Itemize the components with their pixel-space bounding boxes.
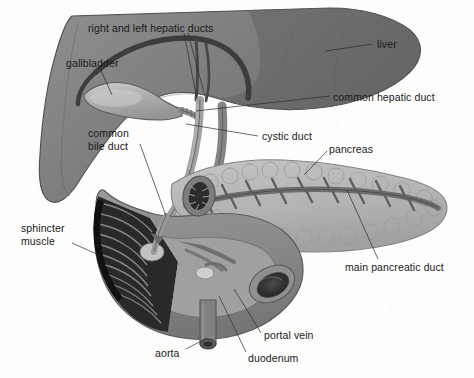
label-main-pancreatic-duct: main pancreatic duct [345, 261, 444, 274]
label-portal-vein: portal vein [264, 329, 314, 342]
label-sphincter-muscle: sphincter muscle [21, 222, 65, 247]
label-right-and-left-hepatic-ducts: right and left hepatic ducts [88, 22, 213, 35]
label-aorta: aorta [155, 347, 179, 360]
leader-line-common-bile-duct [140, 144, 166, 216]
label-liver: liver [377, 38, 397, 51]
label-cystic-duct: cystic duct [262, 130, 312, 143]
aorta-structure [200, 300, 216, 349]
label-duodenum: duodenum [248, 352, 298, 365]
anatomy-diagram-canvas: right and left hepatic ductslivergallbla… [0, 0, 474, 378]
cystic-duct-structure [180, 107, 198, 119]
label-common-hepatic-duct: common hepatic duct [333, 91, 435, 104]
label-gallbladder: gallbladder [66, 57, 118, 70]
label-common-bile-duct: common bile duct [88, 127, 129, 152]
label-pancreas: pancreas [329, 143, 373, 156]
